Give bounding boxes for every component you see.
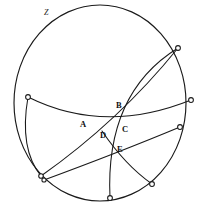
boundary-node-bottom-left-secondary bbox=[42, 178, 46, 182]
intersection-label-e: E bbox=[117, 145, 123, 154]
intersection-label-b: B bbox=[116, 101, 122, 110]
boundary-node-bottom-left bbox=[39, 174, 44, 179]
geodesic-arc-left-to-bottom-left bbox=[25, 97, 41, 176]
boundary-node-right-upper bbox=[189, 98, 194, 103]
boundary-node-top-right bbox=[176, 46, 181, 51]
boundary-node-right-lower bbox=[178, 125, 183, 130]
boundary-label-z: Z bbox=[44, 9, 48, 17]
geometry-figure-canvas: Z A B C D E bbox=[0, 0, 202, 207]
geodesic-diagram-svg bbox=[0, 0, 202, 207]
intersection-label-c: C bbox=[122, 125, 128, 134]
geodesic-arc-bottom-left-to-top-right bbox=[41, 48, 178, 176]
geodesic-arc-left-to-right-upper bbox=[28, 97, 191, 117]
geodesic-arc-top-right-to-bottom bbox=[110, 48, 178, 198]
intersection-label-d: D bbox=[100, 131, 106, 140]
boundary-node-bottom bbox=[108, 196, 113, 201]
boundary-node-left bbox=[26, 95, 31, 100]
intersection-label-a: A bbox=[80, 120, 86, 129]
boundary-node-bottom-right bbox=[150, 182, 155, 187]
